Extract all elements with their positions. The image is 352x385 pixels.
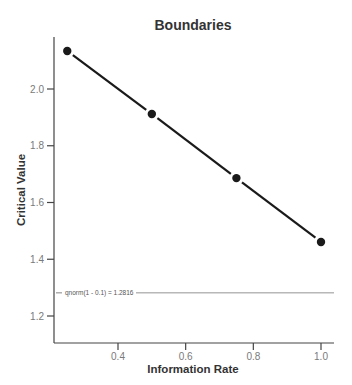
x-tick-label: 0.8	[246, 351, 260, 362]
reference-line-label: qnorm(1 - 0.1) = 1.2816	[65, 289, 134, 297]
y-tick-label: 2.0	[30, 84, 44, 95]
series-segment	[73, 55, 146, 110]
y-tick-label: 1.4	[30, 254, 44, 265]
x-tick-label: 0.6	[179, 351, 193, 362]
series-segment	[157, 118, 230, 174]
data-point	[148, 110, 156, 118]
x-axis-label: Information Rate	[147, 363, 238, 375]
x-ticks: 0.40.60.81.0	[111, 343, 328, 362]
data-point	[232, 174, 240, 182]
x-tick-label: 1.0	[314, 351, 328, 362]
x-tick-label: 0.4	[111, 351, 125, 362]
data-point	[317, 238, 325, 246]
y-ticks: 1.21.41.61.82.0	[30, 84, 54, 322]
y-tick-label: 1.2	[30, 311, 44, 322]
y-axis-label: Critical Value	[15, 154, 27, 226]
data-point	[63, 47, 71, 55]
y-tick-label: 1.6	[30, 197, 44, 208]
chart-title: Boundaries	[154, 17, 231, 33]
y-tick-label: 1.8	[30, 140, 44, 151]
series-segment	[242, 182, 315, 237]
plot-area: qnorm(1 - 0.1) = 1.2816	[56, 47, 334, 297]
boundaries-chart: Boundaries qnorm(1 - 0.1) = 1.2816 1.21.…	[0, 0, 352, 385]
